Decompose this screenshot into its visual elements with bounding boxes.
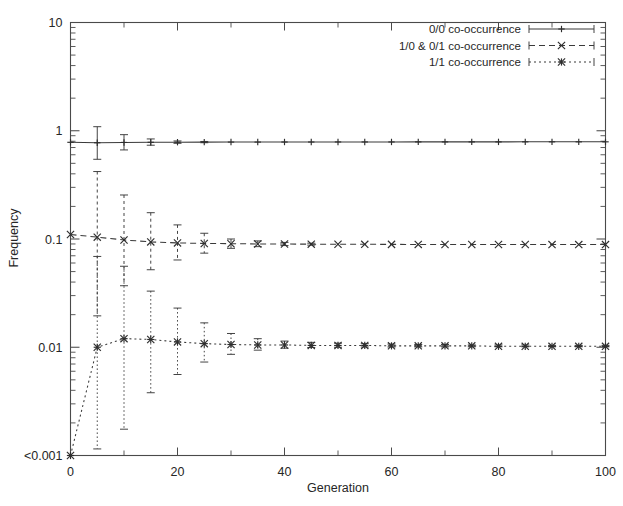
y-axis-ticks: <0.0010.010.1110 <box>24 16 606 463</box>
x-tick-label: 100 <box>595 465 616 479</box>
series-1 <box>67 127 608 160</box>
chart-legend: 0/0 co-occurrence1/0 & 0/1 co-occurrence… <box>399 23 594 68</box>
chart-figure: <0.0010.010.1110 020406080100 0/0 co-occ… <box>0 0 623 506</box>
x-axis-title: Generation <box>307 481 369 495</box>
data-series-layer <box>67 127 610 459</box>
y-tick-label: 0.1 <box>45 233 62 247</box>
y-tick-label: 10 <box>49 16 63 30</box>
y-tick-label: <0.001 <box>24 449 63 463</box>
x-tick-label: 0 <box>67 465 74 479</box>
y-tick-label: 1 <box>56 124 63 138</box>
x-tick-label: 80 <box>492 465 506 479</box>
legend-label-2: 1/0 & 0/1 co-occurrence <box>399 40 521 52</box>
series-2 <box>67 172 609 316</box>
x-tick-label: 20 <box>171 465 185 479</box>
legend-label-1: 0/0 co-occurrence <box>429 23 521 35</box>
legend-label-3: 1/1 co-occurrence <box>429 56 521 68</box>
frequency-vs-generation-chart: <0.0010.010.1110 020406080100 0/0 co-occ… <box>0 0 623 506</box>
series-3 <box>67 256 610 459</box>
x-tick-label: 40 <box>278 465 292 479</box>
x-tick-label: 60 <box>385 465 399 479</box>
x-axis-ticks: 020406080100 <box>67 23 616 479</box>
y-axis-title: Frequency <box>7 208 21 268</box>
y-tick-label: 0.01 <box>38 341 62 355</box>
